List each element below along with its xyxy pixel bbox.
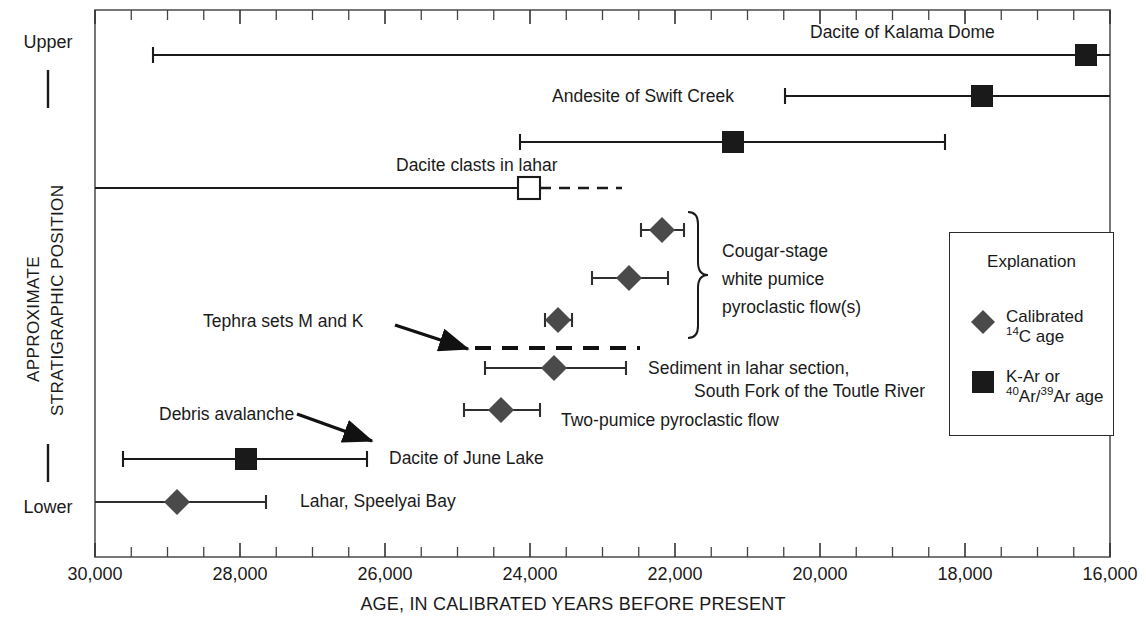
annotation-cougar-stage-line3: pyroclastic flow(s) [722,296,861,319]
legend-label-ar39-superscript: 39 [1041,387,1054,406]
marker-square [722,131,744,153]
marker-diamond [616,265,642,291]
x-tick-label-5: 20,000 [770,564,870,585]
marker-diamond [488,397,514,423]
row-label-dacite-of-june-lake: Dacite of June Lake [389,448,544,469]
legend-label-c14-rest: C age [1019,327,1064,346]
y-axis-title-line2: STRATIGRAPHIC POSITION [48,185,68,416]
legend-marker-square-icon [970,369,996,395]
marker-square [971,85,993,107]
legend-label-ar-rest: Ar age [1053,387,1103,406]
lower-label: Lower [8,497,88,518]
cougar-group-brace [688,212,708,338]
x-tick-label-6: 18,000 [915,564,1015,585]
datapoint-unlabeled-kar [520,131,945,153]
datapoint-two-pumice-pyroclastic-flow [464,397,540,423]
datapoint-sediment-in-lahar-section [485,355,626,381]
y-axis-title-line1: APPROXIMATE [24,256,44,382]
tephra-sets-arrow-icon [395,325,468,349]
x-tick-label-1: 28,000 [190,564,290,585]
x-tick-label-2: 26,000 [335,564,435,585]
row-label-two-pumice-pyroclastic-flow: Two-pumice pyroclastic flow [561,410,779,431]
datapoint-dacite-of-june-lake [123,448,367,470]
row-label-dacite-of-kalama-dome: Dacite of Kalama Dome [810,22,995,43]
annotation-cougar-stage-line2: white pumice [722,268,824,291]
datapoint-lahar-speelyai-bay [95,489,266,515]
legend-marker-diamond-icon [970,309,996,335]
marker-open-square [518,177,540,199]
x-tick-label-4: 22,000 [625,564,725,585]
marker-square [1075,44,1097,66]
legend-label-kar-line1: K-Ar or [1006,367,1060,386]
x-tick-label-7: 16,000 [1060,564,1146,585]
marker-diamond [164,489,190,515]
datapoint-andesite-of-swift-creek [785,85,1110,107]
chart-canvas: Upper Lower APPROXIMATE STRATIGRAPHIC PO… [0,0,1146,619]
annotation-debris-avalanche: Debris avalanche [159,404,294,425]
legend-label-kar-ar40-ar39: K-Ar or 40Ar/39Ar age [1006,367,1104,407]
datapoint-dacite-clasts-in-lahar [95,177,622,199]
annotation-tephra-sets-m-and-k: Tephra sets M and K [203,311,364,332]
marker-diamond [545,307,571,333]
annotation-cougar-stage-line1: Cougar-stage [722,240,828,263]
legend-box: Explanation Calibrated 14C age K-Ar or 4… [949,232,1114,436]
legend-label-calibrated-c14: Calibrated 14C age [1006,307,1084,347]
x-tick-label-0: 30,000 [45,564,145,585]
legend-label-ar-mid: Ar/ [1019,387,1041,406]
row-label-dacite-clasts-in-lahar: Dacite clasts in lahar [396,155,557,176]
marker-diamond [541,355,567,381]
datapoint-cougar-3 [545,307,572,333]
row-label-lahar-speelyai-bay: Lahar, Speelyai Bay [300,491,456,512]
legend-label-calibrated-line1: Calibrated [1006,307,1084,326]
marker-square [235,448,257,470]
datapoint-cougar-1 [641,217,684,243]
datapoint-dacite-of-kalama-dome [153,44,1110,66]
debris-avalanche-arrow-icon [297,414,372,441]
x-axis-title: AGE, IN CALIBRATED YEARS BEFORE PRESENT [0,594,1146,615]
datapoint-cougar-2 [592,265,668,291]
row-label-sediment-line2: South Fork of the Toutle River [694,381,925,402]
legend-title: Explanation [950,252,1113,272]
row-label-sediment-line1: Sediment in lahar section, [648,358,849,379]
row-label-andesite-of-swift-creek: Andesite of Swift Creek [552,86,734,107]
legend-label-c14-superscript: 14 [1006,327,1019,346]
marker-diamond [649,217,675,243]
upper-label: Upper [8,32,88,53]
x-tick-label-3: 24,000 [480,564,580,585]
legend-label-ar40-superscript: 40 [1006,387,1019,406]
